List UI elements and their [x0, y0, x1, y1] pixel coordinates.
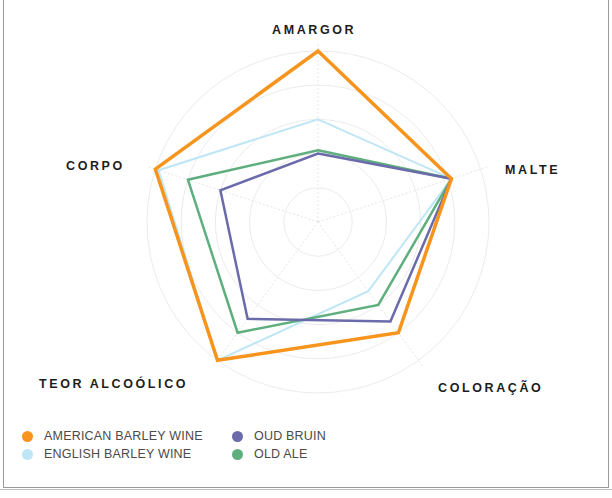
series-old-ale: [188, 150, 452, 333]
radar-chart: [0, 0, 612, 498]
legend-item-oud-bruin[interactable]: OUD BRUIN: [232, 429, 402, 443]
legend-label: OUD BRUIN: [254, 429, 326, 443]
legend-dot-icon: [232, 431, 243, 442]
legend-item-american-barley-wine[interactable]: AMERICAN BARLEY WINE: [22, 429, 232, 443]
legend-label: OLD ALE: [254, 447, 308, 461]
legend: AMERICAN BARLEY WINE OUD BRUIN ENGLISH B…: [22, 429, 442, 461]
axis-label-coloracao: COLORAÇÃO: [438, 381, 543, 395]
legend-dot-icon: [232, 449, 243, 460]
axis-label-malte: MALTE: [505, 163, 560, 177]
legend-dot-icon: [22, 431, 33, 442]
series-american-barley-wine: [155, 51, 451, 360]
radar-series: [155, 51, 451, 360]
legend-label: ENGLISH BARLEY WINE: [44, 447, 191, 461]
legend-item-old-ale[interactable]: OLD ALE: [232, 447, 402, 461]
axis-label-teor-alcoolico: TEOR ALCOÓLICO: [39, 377, 188, 391]
axis-label-corpo: CORPO: [66, 159, 125, 173]
axis-label-amargor: AMARGOR: [272, 23, 356, 37]
legend-dot-icon: [22, 449, 33, 460]
legend-item-english-barley-wine[interactable]: ENGLISH BARLEY WINE: [22, 447, 232, 461]
legend-label: AMERICAN BARLEY WINE: [44, 429, 203, 443]
